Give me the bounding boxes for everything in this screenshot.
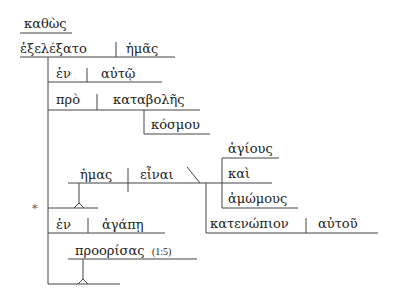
prep-katenopion: κατενώπιον — [210, 216, 289, 231]
predicate-amomous: ἀμώμους — [228, 191, 287, 206]
prep-object-katabolis: καταβολῆς — [113, 92, 185, 107]
predicate-diagonal — [187, 167, 200, 183]
main-object: ἡμᾶς — [126, 41, 158, 56]
prep-object-auto: αὐτῷ — [101, 66, 135, 81]
prep-en-1: ἐν — [56, 66, 71, 81]
prep-object-agape: ἀγάπῃ — [102, 217, 144, 233]
prep-pro: πρὸ — [56, 92, 80, 107]
infinitive-verb: εἶναι — [140, 166, 174, 182]
main-verb: ἐξελέξατο — [20, 41, 87, 56]
verse-reference: (1:5) — [152, 246, 171, 258]
participle-proorisas: προορίσας — [75, 243, 145, 258]
asterisk-marker: * — [32, 202, 38, 215]
sentence-diagram: καθὼς ἐξελέξατο ἡμᾶς ἐν αὐτῷ πρὸ καταβολ… — [0, 0, 398, 304]
predicate-hagious: ἁγίους — [228, 141, 273, 156]
infinitive-subject: ἡμας — [80, 167, 112, 182]
conjunction-word: καθὼς — [24, 16, 67, 31]
genitive-kosmou: κόσμου — [151, 117, 200, 132]
prep-en-2: ἐν — [56, 217, 71, 232]
prep-object-autou: αὐτοῦ — [318, 216, 358, 231]
predicate-kai: καὶ — [228, 166, 250, 181]
